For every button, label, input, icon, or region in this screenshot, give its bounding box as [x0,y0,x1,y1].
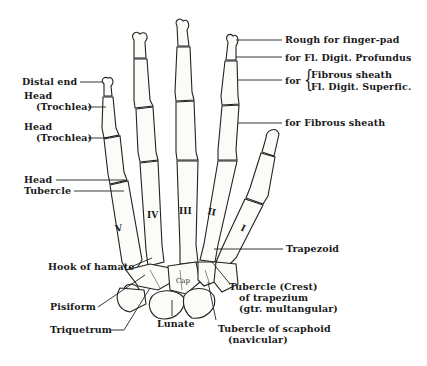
label-pisiform: Pisiform [50,301,96,312]
label-head: Head [24,174,52,185]
label-tubercle-trapezium-2: of trapezium [239,292,308,303]
label-tubercle-scaphoid-2: (navicular) [228,334,288,345]
label-tubercle-trapezium-3: (gtr. multangular) [239,303,338,314]
label-fl-digit-superfic: Fl. Digit. Superfic. [311,81,411,92]
label-fibrous-sheath: Fibrous sheath [311,69,392,80]
triquetrum [117,288,146,312]
label-tubercle: Tubercle [24,185,71,196]
metacarpal-iii-numeral: III [179,206,192,216]
label-head-trochlea-2: Head [24,121,52,132]
label-triquetrum: Triquetrum [50,324,112,335]
label-fl-digit-profundus: for Fl. Digit. Profundus [285,52,412,63]
label-tubercle-trapezium: Tubercle (Crest) [229,281,317,292]
label-head-trochlea-1: Head [24,90,52,101]
capitate-label: Cap [176,277,191,285]
label-trapezoid: Trapezoid [286,243,339,254]
label-for-prefix: for [285,75,301,86]
lunate [149,291,184,319]
label-rough-finger-pad: Rough for finger-pad [285,34,399,45]
label-head-trochlea-1-sub: (Trochlea) [36,101,92,112]
hand-bones-diagram: V IV III II [0,0,427,366]
metacarpal-iv-numeral: IV [147,210,159,220]
label-head-trochlea-2-sub: (Trochlea) [36,132,92,143]
label-for-fibrous-sheath: for Fibrous sheath [285,117,385,128]
label-tubercle-scaphoid: Tubercle of scaphoid [218,323,331,334]
carpal-bones: Cap [117,262,238,319]
digit-iii: III [175,19,198,264]
label-lunate: Lunate [157,318,195,329]
label-hook-of-hamate: Hook of hamate [48,261,134,272]
label-distal-end: Distal end [22,76,77,87]
